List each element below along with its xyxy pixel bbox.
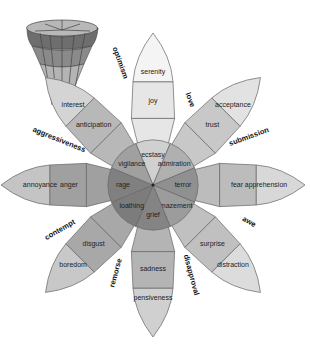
petal-joy (131, 33, 174, 155)
emotion-label-fear: fear (231, 181, 244, 188)
emotion-label-boredom: boredom (59, 261, 87, 268)
emotion-label-pensiveness: pensiveness (134, 294, 173, 302)
dyad-label-love: love (184, 91, 198, 108)
emotion-wheel-diagram: serenityjoyacceptancetrustapprehensionfe… (0, 0, 310, 345)
emotion-label-rage: rage (116, 181, 130, 189)
emotion-label-vigilance: vigilance (118, 160, 145, 168)
emotion-label-interest: interest (62, 101, 85, 108)
emotion-label-surprise: surprise (200, 240, 225, 248)
dyad-label-optimism: optimism (111, 46, 131, 81)
emotion-label-trust: trust (206, 121, 220, 128)
dyad-label-awe: awe (241, 214, 258, 229)
emotion-label-loathing: loathing (120, 202, 145, 210)
dyad-label-remorse: remorse (107, 257, 123, 288)
emotion-label-anger: anger (60, 181, 79, 189)
emotion-label-ecstasy: ecstasy (141, 151, 165, 159)
emotion-label-anticipation: anticipation (76, 121, 112, 129)
emotion-label-disgust: disgust (83, 240, 105, 248)
emotion-label-acceptance: acceptance (215, 101, 251, 109)
emotion-label-joy: joy (148, 97, 158, 105)
emotion-label-annoyance: annoyance (23, 181, 57, 189)
petal-sadness (131, 215, 174, 337)
emotion-label-admiration: admiration (158, 160, 191, 167)
emotion-label-terror: terror (175, 181, 192, 188)
emotion-label-grief: grief (146, 211, 160, 219)
emotion-label-apprehension: apprehension (245, 181, 288, 189)
center-dot (152, 184, 155, 187)
emotion-label-distraction: distraction (217, 261, 249, 268)
emotion-label-serenity: serenity (141, 68, 166, 76)
emotion-label-sadness: sadness (140, 265, 167, 272)
